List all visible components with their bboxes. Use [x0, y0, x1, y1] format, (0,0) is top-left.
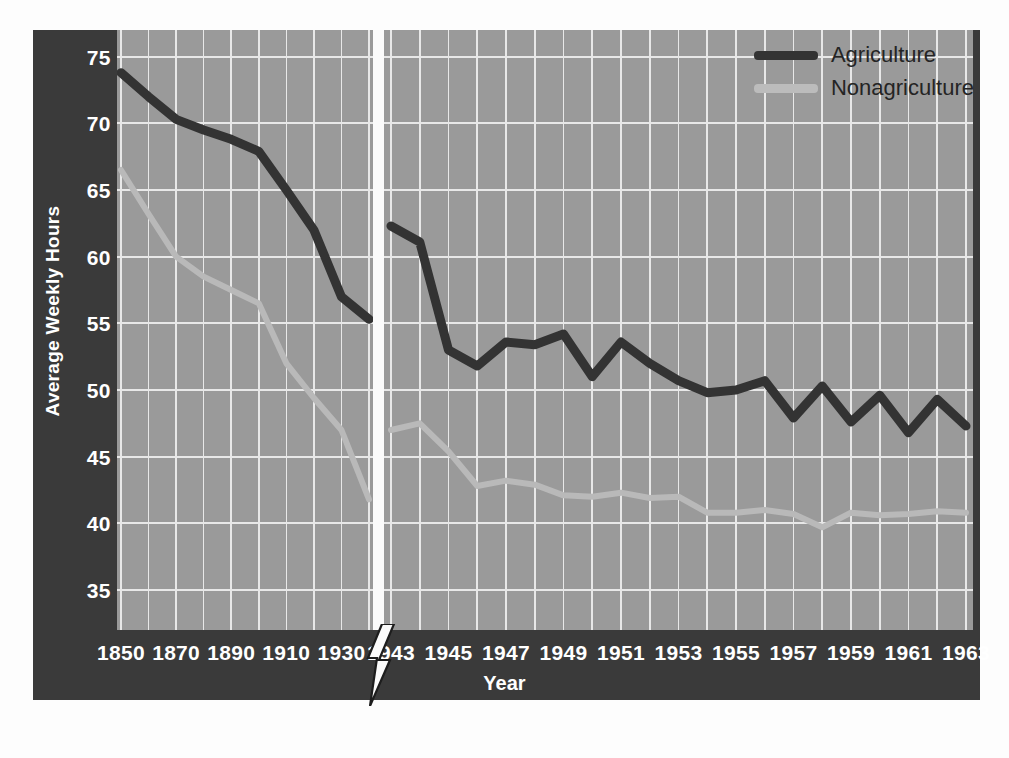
y-tick-label: 45 — [53, 447, 111, 468]
x-tick-label: 1947 — [482, 641, 530, 665]
x-axis-title: Year — [0, 672, 1009, 695]
legend-label: Nonagriculture — [831, 75, 974, 101]
y-tick-label: 70 — [53, 113, 111, 134]
data-series — [121, 73, 966, 528]
x-tick-label: 1951 — [597, 641, 645, 665]
x-tick-label: 1930 — [317, 641, 365, 665]
plot-svg — [117, 30, 973, 630]
plot-area — [117, 30, 973, 630]
x-tick-label: 1949 — [540, 641, 588, 665]
y-tick-label: 40 — [53, 513, 111, 534]
x-tick-label: 1963 — [942, 641, 990, 665]
y-axis-title: Average Weekly Hours — [42, 196, 64, 426]
legend-item: Nonagriculture — [754, 75, 974, 101]
x-tick-label: 1953 — [655, 641, 703, 665]
x-tick-label: 1961 — [885, 641, 933, 665]
x-tick-label: 1910 — [262, 641, 310, 665]
x-tick-label: 1945 — [425, 641, 473, 665]
chart-legend: AgricultureNonagriculture — [754, 42, 974, 108]
chart-figure: 354045505560657075 Average Weekly Hours … — [0, 0, 1009, 758]
x-tick-label: 1890 — [207, 641, 255, 665]
x-tick-label: 1957 — [770, 641, 818, 665]
legend-label: Agriculture — [831, 42, 936, 68]
x-tick-label: 1959 — [827, 641, 875, 665]
legend-swatch-icon — [754, 84, 818, 93]
gridlines — [117, 30, 973, 630]
y-tick-label: 35 — [53, 580, 111, 601]
x-axis-ticks: 1850187018901910193019431945194719491951… — [0, 641, 1009, 671]
x-tick-label: 1955 — [712, 641, 760, 665]
y-tick-label: 75 — [53, 47, 111, 68]
legend-item: Agriculture — [754, 42, 974, 68]
x-tick-label: 1850 — [97, 641, 145, 665]
x-tick-label: 1870 — [152, 641, 200, 665]
axis-break-band — [373, 30, 384, 630]
axis-break-lightning-bolt-icon — [364, 624, 396, 706]
legend-swatch-icon — [754, 51, 818, 60]
